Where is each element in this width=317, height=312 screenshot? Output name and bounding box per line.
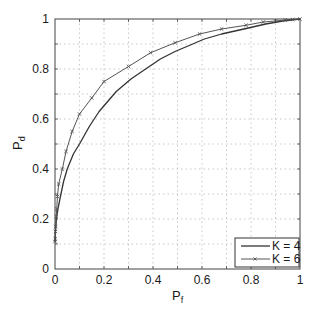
legend-label-k4: K = 4 [272,239,301,253]
legend-label-k6: K = 6 [272,252,301,266]
legend: K = 4 K = 6 [235,238,301,267]
y-tick-label: 0.6 [32,112,49,126]
roc-chart: 00.20.40.60.8100.20.40.60.81 Pf Pd K = 4… [0,0,317,312]
y-tick-label: 0.2 [32,212,49,226]
x-tick-label: 0.4 [145,273,162,287]
y-tick-label: 1 [42,12,49,26]
y-tick-label: 0 [42,262,49,276]
x-tick-label: 0.2 [96,273,113,287]
x-marker-icon [90,96,93,99]
x-tick-label: 0.6 [194,273,211,287]
y-tick-label: 0.8 [32,62,49,76]
x-tick-label: 0.8 [243,273,260,287]
y-axis-label: Pd [10,136,27,150]
x-tick-label: 0 [52,273,59,287]
x-axis-label: Pf [172,288,184,305]
x-tick-label: 1 [297,273,304,287]
grid-lines [55,19,300,269]
y-tick-label: 0.4 [32,162,49,176]
